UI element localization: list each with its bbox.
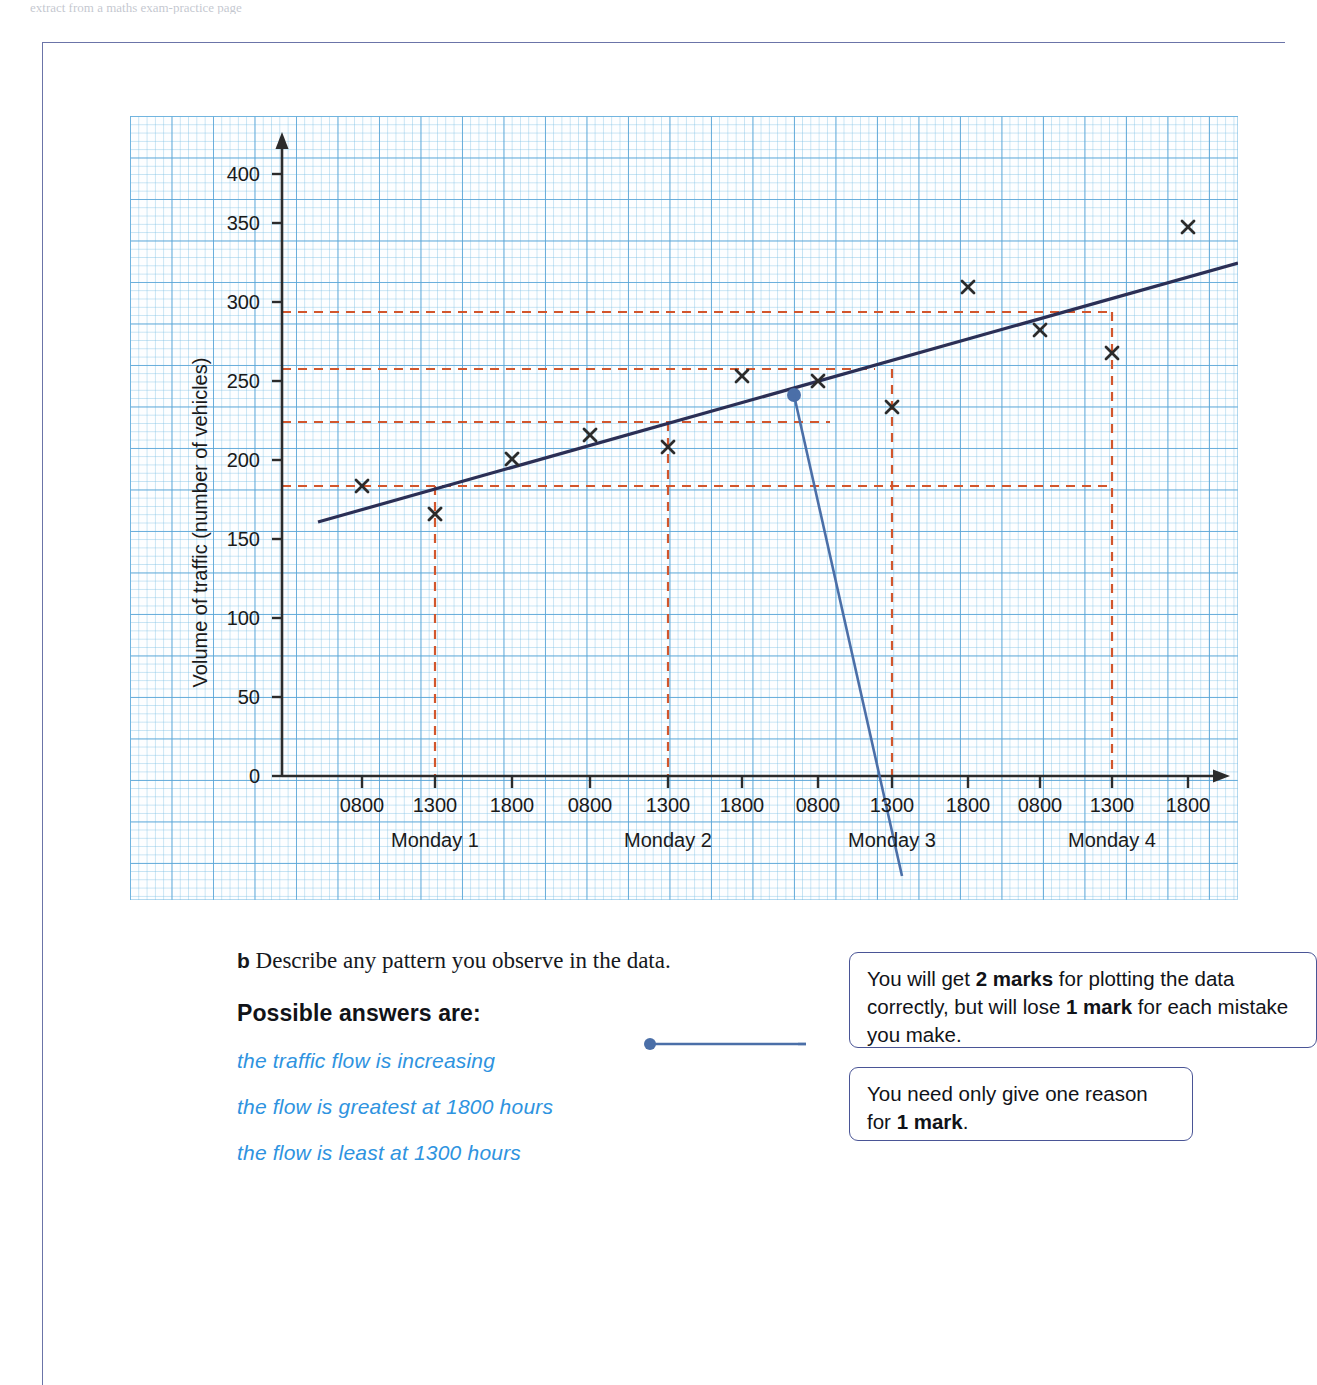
callout-text: . <box>963 1110 969 1133</box>
reference-lines-vertical <box>435 312 1112 776</box>
x-tick-label: 0800 <box>322 794 402 817</box>
x-tick-label: 1300 <box>1072 794 1152 817</box>
day-group-label: Monday 2 <box>588 829 748 852</box>
question-label: b <box>237 949 250 972</box>
y-tick-label: 350 <box>200 212 260 235</box>
x-tick-label: 0800 <box>1000 794 1080 817</box>
reference-lines-horizontal <box>282 312 1112 486</box>
x-tick-label: 1300 <box>395 794 475 817</box>
day-group-label: Monday 3 <box>812 829 972 852</box>
y-tick-label: 300 <box>200 291 260 314</box>
day-group-label: Monday 4 <box>1032 829 1192 852</box>
chart-svg <box>130 116 1238 900</box>
data-marker <box>584 429 596 441</box>
answer-item: the traffic flow is increasing <box>237 1049 857 1073</box>
answer-item: the flow is greatest at 1800 hours <box>237 1095 857 1119</box>
running-head: extract from a maths exam-practice page <box>0 0 1289 14</box>
answer-item: the flow is least at 1300 hours <box>237 1141 857 1165</box>
y-axis-ticks <box>272 174 282 776</box>
data-marker <box>962 281 974 293</box>
x-tick-label: 1300 <box>628 794 708 817</box>
y-tick-label: 50 <box>200 686 260 709</box>
question-text: Describe any pattern you observe in the … <box>256 948 671 973</box>
y-tick-label: 400 <box>200 163 260 186</box>
y-axis-title: Volume of traffic (number of vehicles) <box>189 358 212 688</box>
x-tick-label: 1800 <box>928 794 1008 817</box>
x-tick-label: 1800 <box>472 794 552 817</box>
x-tick-label: 0800 <box>778 794 858 817</box>
callout-marks: You will get 2 marks for plotting the da… <box>849 952 1317 1048</box>
traffic-volume-chart: 400 350 300 250 200 150 100 50 0 0800 13… <box>130 116 1238 900</box>
callout-emphasis: 1 mark <box>897 1110 963 1133</box>
callout-emphasis: 2 marks <box>976 967 1054 990</box>
data-marker <box>1182 221 1194 233</box>
x-tick-label: 1800 <box>1148 794 1228 817</box>
x-tick-label: 1300 <box>852 794 932 817</box>
answer-block: b Describe any pattern you observe in th… <box>237 948 857 1165</box>
data-marker <box>506 453 518 465</box>
question-line: b Describe any pattern you observe in th… <box>237 948 857 974</box>
page-frame: 400 350 300 250 200 150 100 50 0 0800 13… <box>42 42 1285 1385</box>
possible-answers-heading: Possible answers are: <box>237 1000 857 1027</box>
x-tick-label: 0800 <box>550 794 630 817</box>
trend-line <box>318 263 1238 522</box>
x-axis-ticks <box>362 776 1188 788</box>
y-tick-label: 0 <box>200 765 260 788</box>
callout-emphasis: 1 mark <box>1066 995 1132 1018</box>
y-axis-arrow <box>276 132 289 149</box>
chart-axes <box>282 142 1220 776</box>
x-axis-arrow <box>1213 770 1230 783</box>
callout-reason: You need only give one reason for 1 mark… <box>849 1067 1193 1141</box>
x-tick-label: 1800 <box>702 794 782 817</box>
data-marker <box>1034 324 1046 336</box>
data-marker <box>736 370 748 382</box>
day-group-label: Monday 1 <box>355 829 515 852</box>
callout-text: You will get <box>867 967 976 990</box>
